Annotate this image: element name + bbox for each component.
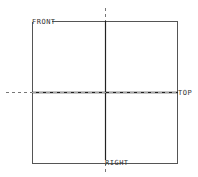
datum-planes-canvas: FRONT TOP RIGHT <box>0 0 198 177</box>
top-plane-label: TOP <box>178 89 192 97</box>
front-plane-label: FRONT <box>32 18 56 26</box>
right-plane-label: RIGHT <box>105 159 129 167</box>
